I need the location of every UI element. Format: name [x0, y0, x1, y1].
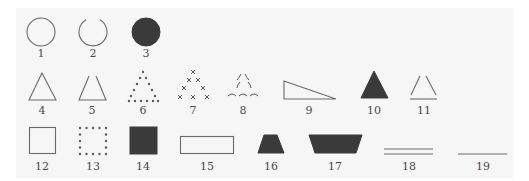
shape-label: 7 — [190, 104, 197, 117]
shape-4-triangle-outline: 4 — [29, 73, 56, 117]
shape-label: 8 — [240, 104, 247, 117]
shape-label: 11 — [417, 104, 431, 117]
shape-1-circle-outline: 1 — [27, 18, 55, 60]
shape-19-single-line: 19 — [458, 154, 507, 173]
shape-label: 19 — [476, 160, 490, 173]
shape-label: 3 — [143, 47, 150, 60]
shape-label: 4 — [39, 104, 46, 117]
shape-label: 1 — [38, 47, 45, 60]
shape-label: 16 — [264, 160, 278, 173]
shape-5-triangle-open-apex: 5 — [79, 76, 106, 117]
shape-6-triangle-dotted: 6 — [128, 71, 159, 117]
shape-label: 14 — [136, 160, 150, 173]
shape-17-inverted-trapezoid-filled: 17 — [309, 135, 362, 173]
shape-label: 15 — [200, 160, 214, 173]
shape-label: 10 — [367, 104, 381, 117]
shape-3-circle-filled: 3 — [132, 18, 160, 60]
shape-label: 2 — [90, 47, 97, 60]
shape-label: 6 — [140, 104, 147, 117]
shape-16-trapezoid-filled: 16 — [258, 135, 284, 173]
shape-9-right-triangle-outline: 9 — [284, 81, 336, 117]
shape-10-triangle-filled: 10 — [361, 71, 388, 117]
shape-11-triangle-detached-sides: 11 — [410, 76, 437, 117]
shape-label: 9 — [306, 104, 313, 117]
shape-7-triangle-x-marks: 7 — [178, 70, 209, 117]
shape-catalogue: 1 2 3 4 5 6 — [0, 0, 529, 181]
shape-15-rectangle-outline: 15 — [181, 137, 234, 174]
shape-18-double-parallel-lines: 18 — [384, 149, 433, 173]
shape-12-square-outline: 12 — [30, 128, 56, 174]
shape-2-circle-open-top: 2 — [79, 20, 107, 60]
shape-13-square-dotted: 13 — [79, 127, 107, 173]
shape-label: 17 — [328, 160, 342, 173]
shape-8-triangle-arc-marks: 8 — [228, 74, 258, 117]
shape-label: 18 — [402, 160, 416, 173]
shape-label: 5 — [89, 104, 96, 117]
shape-label: 13 — [86, 160, 100, 173]
shape-14-square-filled: 14 — [130, 127, 157, 173]
shape-label: 12 — [35, 160, 49, 173]
